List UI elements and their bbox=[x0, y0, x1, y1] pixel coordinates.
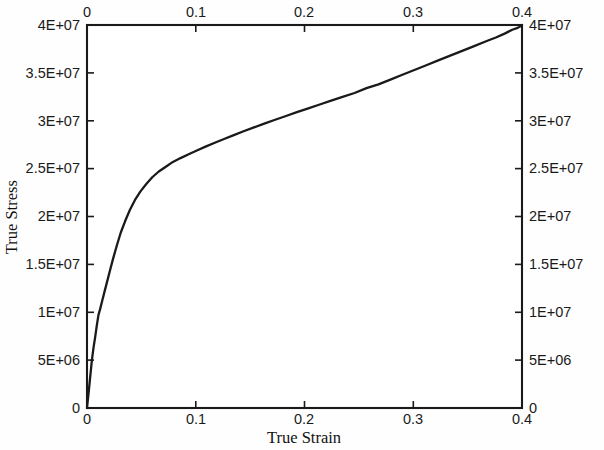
y-tick-label-left-7: 3.5E+07 bbox=[2, 66, 80, 81]
y-tick-label-right-2: 1E+07 bbox=[529, 305, 604, 320]
y-tick-label-right-4: 2E+07 bbox=[529, 209, 604, 224]
x-tick-label-top-0: 0 bbox=[67, 5, 107, 20]
y-tick-label-right-3: 1.5E+07 bbox=[529, 257, 604, 272]
x-tick-label-top-4: 0.4 bbox=[502, 5, 542, 20]
x-tick-label-bottom-0: 0 bbox=[67, 412, 107, 427]
plot-canvas bbox=[0, 0, 604, 450]
x-tick-label-bottom-3: 0.3 bbox=[393, 412, 433, 427]
y-tick-label-right-7: 3.5E+07 bbox=[529, 66, 604, 81]
x-tick-label-top-3: 0.3 bbox=[393, 5, 433, 20]
x-axis-title: True Strain bbox=[244, 430, 364, 447]
y-tick-label-right-1: 5E+06 bbox=[529, 353, 604, 368]
x-tick-label-top-2: 0.2 bbox=[284, 5, 324, 20]
y-tick-label-right-6: 3E+07 bbox=[529, 114, 604, 129]
y-tick-label-left-8: 4E+07 bbox=[2, 18, 80, 33]
x-tick-label-bottom-1: 0.1 bbox=[176, 412, 216, 427]
x-tick-label-top-1: 0.1 bbox=[176, 5, 216, 20]
x-tick-label-bottom-2: 0.2 bbox=[284, 412, 324, 427]
y-tick-label-left-6: 3E+07 bbox=[2, 114, 80, 129]
plot-frame bbox=[87, 25, 522, 408]
y-axis-title: True Stress bbox=[4, 157, 21, 277]
x-tick-label-bottom-4: 0.4 bbox=[502, 412, 542, 427]
y-tick-label-left-2: 1E+07 bbox=[2, 305, 80, 320]
y-tick-label-right-5: 2.5E+07 bbox=[529, 161, 604, 176]
stress-strain-figure: 0 5E+06 1E+07 1.5E+07 2E+07 2.5E+07 3E+0… bbox=[0, 0, 604, 450]
y-tick-label-left-1: 5E+06 bbox=[2, 353, 80, 368]
y-tick-label-right-8: 4E+07 bbox=[529, 18, 604, 33]
